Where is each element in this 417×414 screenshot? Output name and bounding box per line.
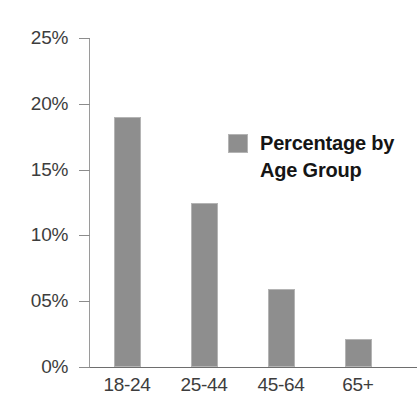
bar [191,203,218,368]
y-axis-tick-mark [79,301,90,302]
y-axis-tick-label: 25% [31,27,68,49]
bar-chart: 0%05%10%15%20%25% 18-2425-4445-6465+ Per… [0,0,417,414]
legend-swatch-icon [228,134,248,153]
y-axis-tick-label: 15% [31,159,68,181]
bar [268,289,295,367]
y-axis-tick-mark [79,367,90,368]
clipped-title-text [22,0,382,4]
x-axis-tick-label: 65+ [308,374,408,396]
bar [345,339,372,367]
y-axis-tick-label: 20% [31,93,68,115]
y-axis-tick-mark [79,170,90,171]
y-axis-tick-label: 0% [41,356,68,378]
y-axis-tick-label: 10% [31,224,68,246]
plot-area [90,38,417,367]
y-axis-tick-label: 05% [31,290,68,312]
y-axis-tick-mark [79,104,90,105]
y-axis-tick-mark [79,38,90,39]
legend-label: Percentage by Age Group [260,130,410,184]
y-axis-tick-mark [79,235,90,236]
x-axis-line [89,367,417,368]
bar [114,117,141,367]
